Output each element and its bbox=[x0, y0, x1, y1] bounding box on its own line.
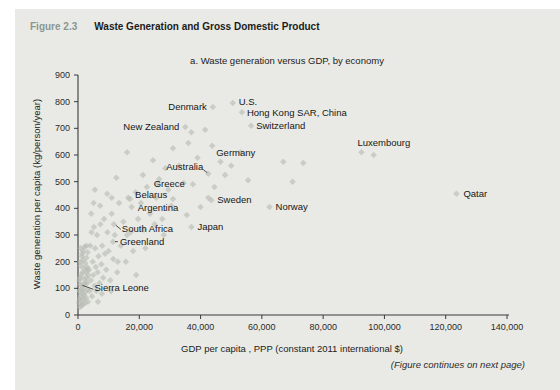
data-point bbox=[84, 249, 91, 256]
country-label-belarus: Belarus bbox=[135, 189, 167, 200]
data-point-hong-kong-sar-china bbox=[239, 109, 246, 116]
data-point bbox=[140, 172, 147, 179]
x-axis-title: GDP per capita , PPP (constant 2011 inte… bbox=[142, 343, 442, 354]
data-point bbox=[104, 190, 111, 197]
data-point bbox=[112, 232, 119, 239]
data-point bbox=[124, 149, 131, 156]
country-label-qatar: Qatar bbox=[463, 188, 487, 199]
country-label-switzerland: Switzerland bbox=[256, 120, 305, 131]
data-point bbox=[97, 221, 104, 228]
data-point bbox=[104, 229, 111, 236]
data-point-germany bbox=[209, 142, 216, 149]
data-point-luxembourg bbox=[358, 149, 365, 156]
country-label-hong-kong-sar-china: Hong Kong SAR, China bbox=[247, 107, 348, 118]
y-tick-label: 100 bbox=[55, 283, 70, 293]
data-point bbox=[222, 172, 229, 179]
x-tick-label: 60,000 bbox=[248, 322, 276, 332]
country-label-denmark: Denmark bbox=[168, 101, 207, 112]
data-point bbox=[116, 200, 123, 207]
data-point-south-africa bbox=[111, 221, 118, 228]
y-tick-label: 500 bbox=[55, 177, 70, 187]
y-tick-label: 600 bbox=[55, 150, 70, 160]
country-label-greenland: Greenland bbox=[120, 236, 164, 247]
data-point bbox=[88, 210, 95, 217]
data-point bbox=[170, 145, 177, 152]
data-point bbox=[228, 162, 235, 169]
x-tick-label: 120,000 bbox=[429, 322, 462, 332]
data-point bbox=[370, 152, 377, 159]
country-label-argentina: Argentina bbox=[138, 202, 179, 213]
data-point bbox=[150, 157, 157, 164]
data-point bbox=[95, 253, 102, 260]
data-point bbox=[103, 266, 110, 273]
data-point-japan bbox=[188, 224, 195, 231]
data-point bbox=[185, 140, 192, 147]
y-tick-label: 800 bbox=[55, 97, 70, 107]
data-point-u-s- bbox=[229, 100, 236, 107]
data-point bbox=[123, 258, 130, 265]
label-leader-line bbox=[203, 170, 207, 173]
country-label-south-africa: South Africa bbox=[122, 223, 174, 234]
x-tick-label: 40,000 bbox=[187, 322, 215, 332]
country-label-australia: Australia bbox=[166, 161, 204, 172]
y-tick-label: 700 bbox=[55, 123, 70, 133]
x-tick-label: 20,000 bbox=[126, 322, 154, 332]
data-point bbox=[280, 158, 287, 165]
data-point bbox=[99, 242, 106, 249]
data-point-argentina bbox=[128, 204, 135, 211]
data-point bbox=[108, 194, 115, 201]
data-point-new-zealand bbox=[182, 124, 189, 131]
y-tick-label: 200 bbox=[55, 257, 70, 267]
data-point bbox=[114, 269, 121, 276]
data-point bbox=[92, 186, 99, 193]
data-point bbox=[98, 261, 105, 268]
y-tick-label: 300 bbox=[55, 230, 70, 240]
data-point bbox=[289, 178, 296, 185]
data-point bbox=[133, 272, 140, 279]
country-label-greece: Greece bbox=[154, 178, 185, 189]
data-point bbox=[184, 212, 191, 219]
data-point bbox=[100, 274, 107, 281]
data-point bbox=[217, 158, 224, 165]
x-tick-label: 80,000 bbox=[309, 322, 337, 332]
data-point bbox=[159, 216, 166, 223]
x-tick-label: 140,000 bbox=[491, 322, 524, 332]
data-point bbox=[93, 264, 100, 271]
country-label-sweden: Sweden bbox=[217, 194, 251, 205]
country-label-norway: Norway bbox=[276, 201, 308, 212]
data-point-qatar bbox=[453, 190, 460, 197]
data-point bbox=[211, 184, 218, 191]
country-label-u-s-: U.S. bbox=[239, 96, 257, 107]
data-point bbox=[135, 216, 142, 223]
data-point-switzerland bbox=[248, 122, 255, 129]
data-point-norway bbox=[266, 204, 273, 211]
data-point bbox=[202, 126, 209, 133]
y-tick-label: 900 bbox=[55, 70, 70, 80]
data-point bbox=[113, 174, 120, 181]
data-point bbox=[89, 258, 96, 265]
data-point-denmark bbox=[210, 104, 217, 111]
x-tick-label: 0 bbox=[75, 322, 80, 332]
figure-continues-note: (Figure continues on next page) bbox=[290, 359, 525, 370]
country-label-germany: Germany bbox=[216, 147, 255, 158]
data-point bbox=[130, 248, 137, 255]
data-point bbox=[197, 204, 204, 211]
country-label-japan: Japan bbox=[197, 221, 223, 232]
y-tick-label: 400 bbox=[55, 203, 70, 213]
data-point bbox=[90, 200, 97, 207]
data-point bbox=[188, 129, 195, 136]
country-label-luxembourg: Luxembourg bbox=[357, 137, 410, 148]
country-label-new-zealand: New Zealand bbox=[123, 121, 179, 132]
data-point bbox=[95, 298, 102, 305]
data-point bbox=[108, 210, 115, 217]
data-point bbox=[101, 216, 108, 223]
x-tick-label: 100,000 bbox=[368, 322, 401, 332]
country-label-sierra-leone: Sierra Leone bbox=[94, 282, 148, 293]
data-point bbox=[300, 160, 307, 167]
data-point bbox=[97, 202, 104, 209]
y-tick-label: 0 bbox=[65, 310, 70, 320]
data-point bbox=[245, 177, 252, 184]
data-point bbox=[94, 232, 101, 239]
scatter-plot: 020,00040,00060,00080,000100,000120,0001… bbox=[0, 0, 560, 390]
label-leader-line bbox=[116, 225, 121, 229]
